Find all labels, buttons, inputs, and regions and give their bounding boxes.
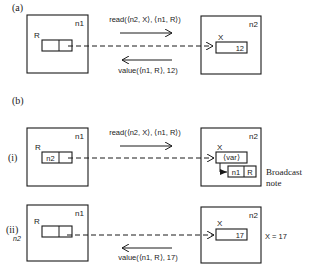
note-cell-left: n1 [232, 168, 240, 177]
step-ii-side-label: n2 [13, 235, 21, 242]
cell-label: R [35, 143, 41, 152]
note-annotation: note [266, 178, 282, 188]
node-name: n2 [249, 20, 258, 29]
note-link-arrow-icon [220, 163, 227, 172]
cell-label: R [34, 217, 40, 226]
node-name: n1 [75, 132, 84, 141]
cell-label: X [217, 143, 223, 152]
node-name: n2 [249, 211, 258, 220]
cell-label: X [217, 219, 223, 228]
node-name: n1 [75, 209, 84, 218]
node-name: n1 [75, 19, 84, 28]
part-b-step-ii: (ii) n2 n1 R value(⟨n1, R⟩, 17) n2 X 17 … [6, 205, 287, 263]
value-message: value(⟨n1, R⟩, 12) [118, 66, 178, 75]
part-a-node-n2: n2 X 12 [201, 16, 261, 74]
cell-value: ⟨var⟩ [223, 153, 239, 162]
broadcast-annotation: Broadcast [266, 167, 302, 177]
register-cell [42, 40, 72, 51]
read-message: read(⟨n2, X⟩, ⟨n1, R⟩) [109, 15, 181, 24]
cell-label: R [34, 31, 40, 40]
cell-value: 17 [236, 231, 244, 240]
part-a: (a) n1 R read(⟨n2, X⟩, ⟨n1, R⟩) value(⟨n… [12, 2, 261, 75]
part-a-label: (a) [12, 2, 23, 14]
read-message: read(⟨n2, X⟩, ⟨n1, R⟩) [109, 128, 181, 137]
part-a-node-n1: n1 R [27, 15, 88, 73]
part-b: (b) (i) n1 R n2 read(⟨n2, X⟩, ⟨n1, R⟩) n… [6, 95, 302, 263]
value-message: value(⟨n1, R⟩, 17) [118, 253, 178, 262]
step-i-node-n2: n2 X ⟨var⟩ n1 R [201, 128, 261, 186]
node-name: n2 [249, 132, 258, 141]
part-b-label: (b) [12, 95, 24, 107]
step-ii-node-n1: n1 R [27, 205, 88, 261]
cell-value: 12 [236, 44, 244, 53]
part-b-step-i: (i) n1 R n2 read(⟨n2, X⟩, ⟨n1, R⟩) n2 X … [8, 128, 302, 188]
cell-left-value: n2 [46, 154, 54, 163]
step-i-node-n1: n1 R n2 [27, 128, 88, 186]
assignment-annotation: X = 17 [265, 232, 287, 241]
step-i-label: (i) [8, 152, 17, 164]
dataflow-diagram: (a) n1 R read(⟨n2, X⟩, ⟨n1, R⟩) value(⟨n… [0, 0, 312, 273]
step-ii-node-n2: n2 X 17 [201, 207, 261, 263]
cell-label: X [218, 33, 224, 42]
note-cell-right: R [247, 168, 253, 177]
